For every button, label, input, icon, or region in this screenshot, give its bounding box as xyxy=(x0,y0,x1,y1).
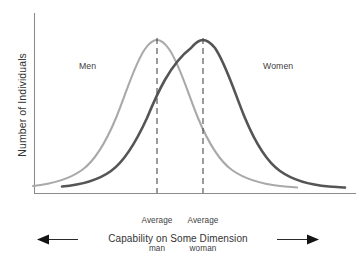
men-curve-label: Men xyxy=(79,62,96,72)
average-woman-label-line1: Average xyxy=(172,216,234,225)
average-woman-label: Average woman xyxy=(172,198,234,257)
women-curve-label: Women xyxy=(263,62,293,72)
x-axis-label: Capability on Some Dimension xyxy=(78,233,278,244)
average-woman-label-line2: woman xyxy=(172,244,234,253)
right-arrowhead-icon xyxy=(307,235,319,245)
distribution-chart-figure: Number of Individuals Men Women Average … xyxy=(0,0,356,257)
men-distribution-curve xyxy=(33,40,297,188)
left-arrowhead-icon xyxy=(37,235,49,245)
y-axis-label: Number of Individuals xyxy=(17,25,29,185)
